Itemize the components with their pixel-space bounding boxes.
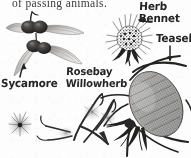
illustration-page: of passing animals. Sycamore Rosebay Wil…: [0, 0, 191, 158]
body-text-line: of passing animals.: [12, 0, 107, 9]
label-rosebay-line2: Willowherb: [65, 77, 127, 89]
rosebay-willowherb-drawing: [37, 94, 116, 145]
label-herb-bennet: Herb Bennet: [138, 0, 180, 23]
drifting-plumed-seed: [8, 112, 32, 136]
label-rosebay-line1: Rosebay: [66, 65, 128, 77]
label-sycamore: Sycamore: [1, 78, 58, 89]
label-teasel-text: Teasel: [156, 33, 191, 44]
teasel-arrow: [167, 46, 172, 62]
label-herb-bennet-line2: Bennet: [138, 12, 180, 24]
label-teasel: Teasel: [156, 33, 191, 44]
label-sycamore-text: Sycamore: [1, 78, 58, 89]
label-rosebay-willowherb: Rosebay Willowherb: [65, 65, 128, 88]
